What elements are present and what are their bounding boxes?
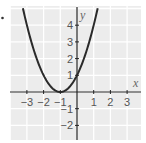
y-tick-label: −1 [60, 103, 73, 115]
y-tick-label: 2 [67, 53, 73, 65]
x-tick-label: 2 [107, 96, 113, 108]
y-axis-label: y [79, 8, 86, 22]
bullet-marker [1, 17, 4, 20]
y-tick-label: 1 [67, 69, 73, 81]
y-tick-label: 3 [67, 36, 73, 48]
y-tick-label: −2 [60, 119, 73, 131]
y-tick-label: 4 [67, 19, 73, 31]
grid-background [10, 6, 141, 140]
x-tick-label: −2 [37, 96, 50, 108]
parabola-chart: −3−2−1123−2−11234 x y [0, 0, 146, 143]
x-tick-label: 3 [124, 96, 130, 108]
x-axis-label: x [132, 76, 139, 90]
x-tick-label: −3 [21, 96, 34, 108]
x-tick-label: 1 [91, 96, 97, 108]
